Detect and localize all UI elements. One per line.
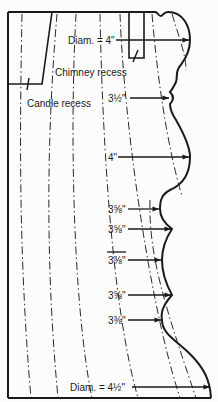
dimension-label-3-3-8-a: 3⅜" bbox=[108, 255, 125, 266]
dimension-label-3-5-8-c: 3⅝" bbox=[108, 290, 125, 301]
chimney-recess-label: Chimney recess bbox=[55, 67, 127, 78]
lamp-profile-diagram: Diam. = 4" Chimney recess Candle recess … bbox=[0, 0, 218, 402]
candle-recess-outline bbox=[8, 12, 52, 84]
dimension-label-3-3-8-b: 3⅜" bbox=[108, 315, 125, 326]
dimension-label-3-5-8-a: 3⅝" bbox=[108, 204, 125, 215]
dimension-label-3-1-2: 3½" bbox=[108, 93, 125, 104]
dimension-label-3-5-8-b: 3⅝" bbox=[108, 224, 125, 235]
dimension-label-4: 4" bbox=[108, 152, 117, 163]
top-diameter-label: Diam. = 4" bbox=[68, 35, 115, 46]
candle-recess-label: Candle recess bbox=[27, 98, 91, 109]
bottom-diameter-label: Diam. = 4½" bbox=[70, 382, 125, 393]
profile-drawing bbox=[0, 0, 218, 402]
chimney-recess-outline bbox=[129, 12, 144, 58]
